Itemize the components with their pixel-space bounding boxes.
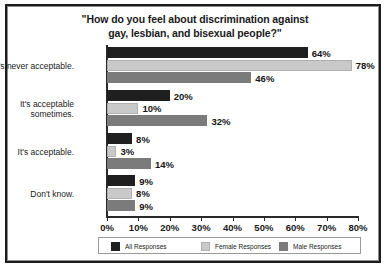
bar-value-label: 8%	[136, 188, 150, 199]
x-axis-tick	[170, 216, 171, 221]
x-axis-tick-label: 70%	[310, 222, 344, 233]
x-axis-tick-label: 30%	[184, 222, 218, 233]
plot-area: It's never acceptable.64%78%46%It's acce…	[107, 45, 358, 217]
bar-all	[107, 90, 170, 101]
bar-female	[107, 103, 138, 114]
x-axis-tick	[358, 216, 359, 221]
category-label: It's acceptablesometimes.	[0, 99, 74, 119]
bar-row: 9%	[107, 200, 358, 211]
category-label: It's acceptable.	[0, 147, 74, 157]
category-label-line: It's never acceptable.	[0, 61, 74, 71]
category-label: Don't know.	[0, 189, 74, 199]
bar-all	[107, 47, 308, 58]
bar-row: 8%	[107, 188, 358, 199]
category-label-line: Don't know.	[0, 189, 74, 199]
bar-row: 10%	[107, 103, 358, 114]
bar-value-label: 64%	[312, 47, 331, 58]
legend-label-female: Female Responses	[215, 243, 271, 250]
legend-swatch-icon-all	[111, 242, 120, 251]
legend-label-male: Male Responses	[293, 243, 341, 250]
bar-row: 64%	[107, 47, 358, 58]
bar-row: 9%	[107, 175, 358, 186]
chart-title-line-1: "How do you feel about discrimination ag…	[30, 13, 360, 27]
category-label-line: It's acceptable.	[0, 147, 74, 157]
x-axis-tick	[201, 216, 202, 221]
bar-row: 46%	[107, 72, 358, 83]
bar-row: 14%	[107, 158, 358, 169]
legend-label-all: All Responses	[125, 243, 167, 250]
bar-male	[107, 158, 151, 169]
bar-value-label: 20%	[174, 90, 193, 101]
chart-figure: "How do you feel about discrimination ag…	[0, 0, 386, 270]
bar-all	[107, 175, 135, 186]
x-axis-tick	[295, 216, 296, 221]
bar-all	[107, 133, 132, 144]
x-axis-tick	[138, 216, 139, 221]
bar-male	[107, 200, 135, 211]
x-axis-tick-label: 40%	[216, 222, 250, 233]
chart-title: "How do you feel about discrimination ag…	[30, 13, 360, 40]
bar-value-label: 9%	[139, 175, 153, 186]
category-label-line: sometimes.	[0, 109, 74, 119]
bar-row: 78%	[107, 60, 358, 71]
legend-swatch-icon-male	[279, 242, 288, 251]
legend-item-male-responses: Male Responses	[279, 241, 341, 252]
x-axis-tick-label: 60%	[278, 222, 312, 233]
bar-female	[107, 188, 132, 199]
legend-item-all-responses: All Responses	[111, 241, 167, 252]
category-label: It's never acceptable.	[0, 61, 74, 71]
bar-value-label: 9%	[139, 200, 153, 211]
bar-value-label: 14%	[155, 158, 174, 169]
category-label-line: It's acceptable	[0, 99, 74, 109]
bar-value-label: 78%	[356, 60, 375, 71]
bar-row: 20%	[107, 90, 358, 101]
x-axis-tick-label: 80%	[341, 222, 375, 233]
chart-legend: All Responses Female Responses Male Resp…	[98, 237, 361, 254]
bar-male	[107, 72, 251, 83]
bar-value-label: 3%	[120, 146, 134, 157]
bar-female	[107, 146, 116, 157]
x-axis-tick	[327, 216, 328, 221]
x-axis-tick	[233, 216, 234, 221]
bar-value-label: 10%	[142, 103, 161, 114]
bar-row: 8%	[107, 133, 358, 144]
x-axis-tick	[107, 216, 108, 221]
x-axis-tick-label: 20%	[153, 222, 187, 233]
bar-value-label: 32%	[211, 115, 230, 126]
bar-male	[107, 115, 207, 126]
legend-item-female-responses: Female Responses	[201, 241, 271, 252]
chart-title-line-2: gay, lesbian, and bisexual people?"	[30, 27, 360, 41]
bar-row: 32%	[107, 115, 358, 126]
bar-female	[107, 60, 352, 71]
x-axis-tick	[264, 216, 265, 221]
legend-swatch-icon-female	[201, 242, 210, 251]
x-axis-tick-label: 0%	[90, 222, 124, 233]
bar-value-label: 8%	[136, 133, 150, 144]
bar-value-label: 46%	[255, 72, 274, 83]
x-axis-tick-label: 10%	[121, 222, 155, 233]
bar-row: 3%	[107, 146, 358, 157]
x-axis-tick-label: 50%	[247, 222, 281, 233]
